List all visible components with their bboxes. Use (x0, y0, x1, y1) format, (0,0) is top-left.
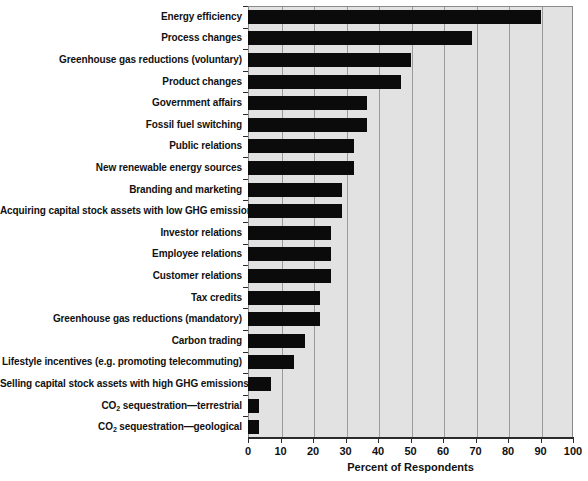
bar (248, 312, 320, 326)
x-axis-tick (573, 437, 574, 443)
x-axis-tick-label: 20 (307, 445, 319, 457)
x-axis-title: Percent of Respondents (248, 461, 573, 473)
y-axis-tick (243, 287, 248, 288)
y-axis-tick (243, 114, 248, 115)
y-axis-tick (243, 6, 248, 7)
category-label: CO2 sequestration—terrestrial (0, 400, 242, 412)
bar-series (248, 6, 573, 438)
y-axis-tick (243, 222, 248, 223)
bar (248, 355, 294, 369)
category-label: Greenhouse gas reductions (voluntary) (0, 54, 242, 65)
x-axis-tick-label: 100 (564, 445, 582, 457)
bar (248, 161, 354, 175)
bar (248, 75, 401, 89)
x-axis-tick-label: 50 (404, 445, 416, 457)
category-label: Selling capital stock assets with high G… (0, 378, 242, 389)
x-axis-tick (281, 437, 282, 443)
category-label: Government affairs (0, 97, 242, 108)
y-axis-tick (243, 330, 248, 331)
category-label: CO2 sequestration—geological (0, 421, 242, 433)
x-axis-tick-label: 10 (274, 445, 286, 457)
category-label: New renewable energy sources (0, 162, 242, 173)
y-axis-tick (243, 71, 248, 72)
x-axis-tick (508, 437, 509, 443)
category-label: Carbon trading (0, 335, 242, 346)
bar (248, 226, 331, 240)
category-label: Fossil fuel switching (0, 119, 242, 130)
x-axis-tick (476, 437, 477, 443)
bar (248, 96, 367, 110)
category-label: Greenhouse gas reductions (mandatory) (0, 313, 242, 324)
x-axis-tick (346, 437, 347, 443)
y-axis-tick (243, 200, 248, 201)
y-axis-tick (243, 49, 248, 50)
category-label: Acquiring capital stock assets with low … (0, 205, 242, 216)
x-axis-tick-label: 40 (372, 445, 384, 457)
x-axis-tick (411, 437, 412, 443)
bar (248, 420, 259, 434)
y-axis-tick (243, 395, 248, 396)
bar (248, 269, 331, 283)
y-axis-tick (243, 244, 248, 245)
x-axis-tick (248, 437, 249, 443)
x-axis-tick-label: 80 (502, 445, 514, 457)
x-axis-tick (541, 437, 542, 443)
bar (248, 139, 354, 153)
y-axis-tick (243, 136, 248, 137)
y-axis-tick (243, 179, 248, 180)
category-label: Branding and marketing (0, 184, 242, 195)
category-label: Lifestyle incentives (e.g. promoting tel… (0, 356, 242, 367)
bar (248, 31, 472, 45)
bar (248, 377, 271, 391)
bar (248, 291, 320, 305)
bar (248, 247, 331, 261)
x-axis-tick-label: 0 (245, 445, 251, 457)
chart-page: Energy efficiencyProcess changesGreenhou… (0, 0, 588, 481)
y-axis-tick (243, 416, 248, 417)
bar (248, 399, 259, 413)
x-axis-tick-label: 60 (437, 445, 449, 457)
category-label: Product changes (0, 76, 242, 87)
y-axis-tick (243, 308, 248, 309)
x-axis-tick (443, 437, 444, 443)
y-axis-tick (243, 265, 248, 266)
category-label: Public relations (0, 140, 242, 151)
x-axis-tick (378, 437, 379, 443)
bar (248, 334, 305, 348)
category-label: Energy efficiency (0, 11, 242, 22)
category-axis-labels: Energy efficiencyProcess changesGreenhou… (0, 6, 242, 438)
category-label: Investor relations (0, 227, 242, 238)
y-axis-tick (243, 92, 248, 93)
y-axis-tick (243, 28, 248, 29)
bar (248, 53, 411, 67)
y-axis-tick (243, 352, 248, 353)
y-axis-tick (243, 373, 248, 374)
category-label: Employee relations (0, 248, 242, 259)
bar (248, 118, 367, 132)
x-axis-tick-label: 90 (534, 445, 546, 457)
x-axis-tick (313, 437, 314, 443)
category-label: Tax credits (0, 292, 242, 303)
y-axis-tick (243, 157, 248, 158)
category-label: Customer relations (0, 270, 242, 281)
bar (248, 10, 541, 24)
category-label: Process changes (0, 32, 242, 43)
bar (248, 204, 342, 218)
x-axis-tick-label: 30 (339, 445, 351, 457)
bar (248, 183, 342, 197)
x-axis-tick-label: 70 (469, 445, 481, 457)
